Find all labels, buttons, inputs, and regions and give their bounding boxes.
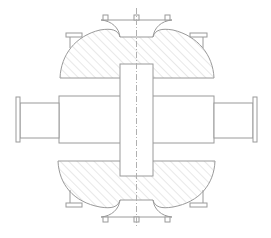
left-nozzle: [16, 97, 59, 142]
technical-drawing: [0, 0, 271, 238]
right-nozzle: [214, 97, 257, 142]
